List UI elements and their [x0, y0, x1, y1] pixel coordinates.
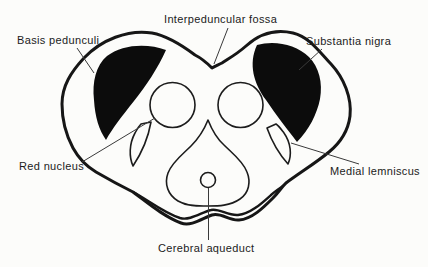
leader-interpeduncular-fossa — [214, 28, 228, 64]
red-nucleus-right-circle — [218, 83, 263, 128]
cerebral-aqueduct-circle — [201, 173, 216, 188]
label-basis-pedunculi: Basis pedunculi — [17, 34, 99, 46]
label-substantia-nigra: Substantia nigra — [306, 35, 391, 47]
red-nucleus-left-circle — [150, 83, 195, 128]
label-cerebral-aqueduct: Cerebral aqueduct — [158, 242, 254, 254]
midbrain-diagram: Interpeduncular fossa Basis pedunculi Su… — [0, 0, 428, 267]
label-red-nucleus: Red nucleus — [19, 160, 84, 172]
label-medial-lemniscus: Medial lemniscus — [330, 165, 420, 177]
label-interpeduncular-fossa: Interpeduncular fossa — [164, 13, 277, 25]
